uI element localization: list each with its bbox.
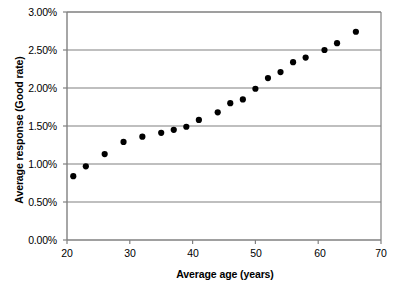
data-point bbox=[321, 47, 327, 53]
data-point bbox=[334, 40, 340, 46]
data-point bbox=[102, 151, 108, 157]
scatter-chart-figure: Average response (Good rate) Average age… bbox=[0, 0, 394, 289]
data-point bbox=[353, 29, 359, 35]
data-point bbox=[240, 96, 246, 102]
data-point bbox=[290, 59, 296, 65]
data-point bbox=[196, 117, 202, 123]
data-point bbox=[70, 173, 76, 179]
data-point bbox=[303, 55, 309, 61]
data-point bbox=[120, 139, 126, 145]
data-point bbox=[158, 130, 164, 136]
plot-area bbox=[0, 0, 394, 289]
data-point bbox=[265, 75, 271, 81]
data-point bbox=[227, 100, 233, 106]
data-point bbox=[83, 163, 89, 169]
data-point bbox=[139, 134, 145, 140]
data-point bbox=[252, 86, 258, 92]
gridlines-group bbox=[67, 12, 381, 202]
data-point bbox=[215, 109, 221, 115]
tick-marks-group bbox=[63, 12, 381, 244]
data-points-group bbox=[70, 29, 359, 180]
data-point bbox=[183, 124, 189, 130]
data-point bbox=[277, 69, 283, 75]
data-point bbox=[171, 127, 177, 133]
